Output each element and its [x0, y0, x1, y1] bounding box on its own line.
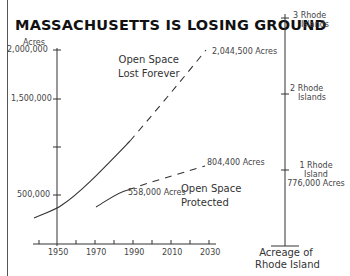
x-tick-1990: 1990: [124, 248, 144, 257]
series-lost-label-line1: Open Space: [118, 53, 180, 67]
chart-canvas: [0, 0, 350, 276]
x-tick-2010: 2010: [162, 248, 182, 257]
ri-tick-1: 1 Rhode Island 776,000 Acres: [286, 161, 346, 188]
ri-tick-1-line1: 1 Rhode: [286, 161, 346, 170]
series-protected-end-label: 804,400 Acres: [207, 158, 265, 167]
series-lost-label-line2: Lost Forever: [118, 67, 180, 81]
series-lost-label: Open Space Lost Forever: [118, 53, 180, 81]
y-tick-1500000: 1,500,000: [11, 94, 52, 103]
ri-tick-2: 2 Rhode Islands: [290, 84, 326, 102]
series-lost-solid: [34, 141, 130, 218]
ri-axis-title-line2: Rhode Island: [255, 259, 317, 271]
series-protected-label-line1: Open Space: [181, 182, 241, 196]
x-tick-1970: 1970: [86, 248, 106, 257]
ri-tick-2-line1: 2 Rhode: [290, 84, 326, 93]
x-tick-2030: 2030: [200, 248, 220, 257]
series-protected-solid: [96, 190, 128, 207]
y-tick-2000000: 2,000,000: [7, 45, 48, 54]
y-tick-500000: 500,000: [17, 190, 50, 199]
ri-axis-title: Acreage of Rhode Island: [255, 247, 317, 271]
x-ticks: [39, 240, 209, 244]
series-protected-point-label: 558,000 Acres: [128, 188, 186, 197]
series-protected-label-line2: Protected: [181, 196, 241, 210]
ri-tick-3: 3 Rhode Islands: [293, 11, 329, 29]
series-protected-label: Open Space Protected: [181, 182, 241, 210]
ri-tick-1-line3: 776,000 Acres: [286, 179, 346, 188]
x-tick-1950: 1950: [48, 248, 68, 257]
ri-axis-title-line1: Acreage of: [255, 247, 317, 259]
series-lost-end-label: 2,044,500 Acres: [212, 47, 277, 56]
ri-tick-1-line2: Island: [286, 170, 346, 179]
ri-tick-3-line2: Islands: [293, 20, 329, 29]
ri-tick-2-line2: Islands: [290, 93, 326, 102]
ri-tick-3-line1: 3 Rhode: [293, 11, 329, 20]
